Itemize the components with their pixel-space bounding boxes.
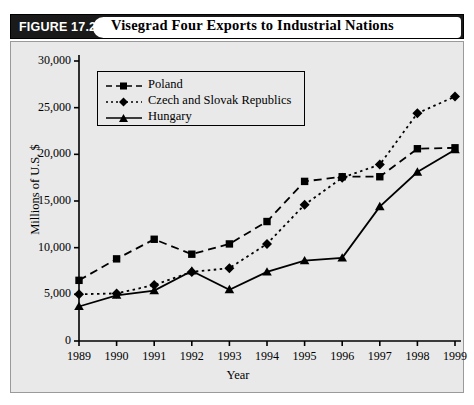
data-point-marker — [413, 167, 423, 175]
legend-label-poland: Poland — [148, 77, 183, 91]
y-tick-label: 5,000 — [17, 286, 71, 301]
x-tick-label: 1999 — [433, 349, 474, 364]
figure-title-text: Visegrad Four Exports to Industrial Nati… — [111, 17, 394, 34]
legend-item-hungary: Hungary — [106, 107, 192, 124]
legend-label-czech-slovak: Czech and Slovak Republics — [148, 93, 291, 107]
data-point-marker — [75, 277, 82, 284]
data-point-marker — [262, 239, 272, 249]
y-tick-label: 30,000 — [17, 53, 71, 68]
data-point-marker — [263, 218, 270, 225]
data-point-marker — [74, 289, 84, 299]
legend-swatch-square-dashed — [106, 79, 142, 89]
x-axis-title: Year — [11, 368, 465, 383]
data-point-marker — [376, 173, 383, 180]
data-point-marker — [149, 286, 159, 294]
data-point-marker — [226, 240, 233, 247]
figure-container: FIGURE 17.2 Visegrad Four Exports to Ind… — [0, 0, 474, 405]
data-point-marker — [113, 255, 120, 262]
data-point-marker — [450, 91, 460, 101]
data-point-marker — [301, 178, 308, 185]
data-point-marker — [414, 145, 421, 152]
legend-item-czech-slovak: Czech and Slovak Republics — [106, 91, 291, 108]
y-tick-label: 25,000 — [17, 100, 71, 115]
y-tick-label: 10,000 — [17, 240, 71, 255]
chart-legend: Poland Czech and Slovak Republics — [97, 71, 305, 126]
legend-item-poland: Poland — [106, 75, 183, 92]
data-point-marker — [188, 251, 195, 258]
legend-swatch-diamond-dotted — [106, 95, 142, 105]
data-point-marker — [151, 236, 158, 243]
chart-panel: Millions of U.S. $ Year 05,00010,00015,0… — [10, 41, 464, 393]
y-tick-label: 15,000 — [17, 193, 71, 208]
y-axis-title: Millions of U.S. $ — [28, 120, 43, 260]
figure-number-label: FIGURE 17.2 — [19, 19, 96, 36]
data-point-marker — [224, 263, 234, 273]
legend-swatch-triangle-solid — [106, 111, 142, 121]
y-tick-label: 0 — [17, 333, 71, 348]
y-tick-label: 20,000 — [17, 146, 71, 161]
legend-label-hungary: Hungary — [148, 109, 192, 123]
figure-title-bar: FIGURE 17.2 Visegrad Four Exports to Ind… — [10, 14, 464, 39]
plot-area: Millions of U.S. $ Year 05,00010,00015,0… — [11, 42, 465, 394]
